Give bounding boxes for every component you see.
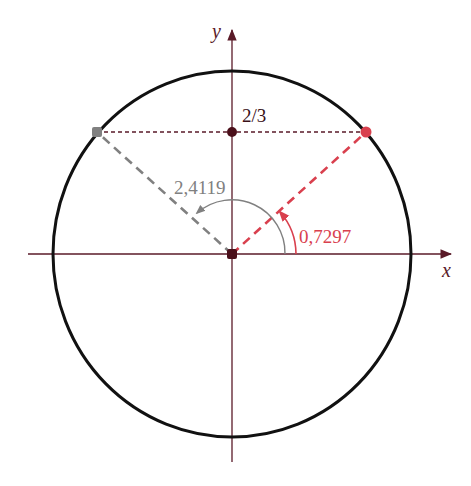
gray-point xyxy=(92,127,102,137)
y-axis-label: y xyxy=(210,20,221,43)
point-label-2-3: 2/3 xyxy=(242,105,266,126)
red-point xyxy=(361,127,372,138)
x-axis-label: x xyxy=(441,259,451,281)
red-angle-arc xyxy=(280,212,296,254)
origin-point xyxy=(227,249,237,259)
y-intercept-point xyxy=(227,127,237,137)
angle-label-0-7297: 0,7297 xyxy=(299,226,351,247)
gray-angle-arc xyxy=(197,200,285,254)
unit-circle-diagram: y x 2/3 2,4119 0,7297 xyxy=(0,0,471,486)
angle-label-2-4119: 2,4119 xyxy=(174,177,226,198)
